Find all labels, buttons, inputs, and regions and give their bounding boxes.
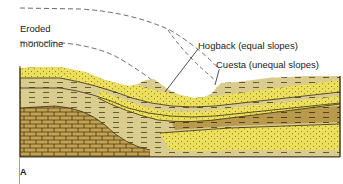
eroded-label-line1: Eroded	[20, 24, 51, 34]
cuesta-label: Cuesta (unequal slopes)	[216, 60, 319, 70]
panel-letter: A	[20, 167, 27, 177]
strata-block	[0, 0, 343, 184]
monocline-cross-section	[0, 0, 343, 184]
cuesta-leader	[215, 70, 219, 85]
hogback-leader	[165, 49, 198, 92]
eroded-label-line2: monocline	[20, 39, 63, 49]
hogback-label: Hogback (equal slopes)	[198, 41, 298, 51]
eroded-profile-arc	[168, 30, 215, 80]
